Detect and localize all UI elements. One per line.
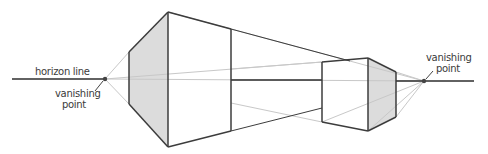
vanishing-point-left-label-line1: vanishing — [55, 88, 99, 99]
right-box-side-face — [368, 58, 396, 131]
perspective-diagram: horizon line vanishing point vanishing p… — [0, 0, 488, 154]
vanishing-point-right — [422, 79, 426, 83]
vanishing-point-right-label-line1: vanishing — [426, 52, 470, 63]
horizon-line — [12, 79, 474, 81]
horizon-line-label: horizon line — [35, 66, 90, 77]
diagram-drawing — [0, 0, 488, 154]
vanishing-point-left — [103, 77, 107, 81]
vanishing-point-right-label-line2: point — [433, 63, 463, 74]
vanishing-point-left-label-line2: point — [59, 99, 89, 110]
leader-right — [426, 71, 433, 79]
